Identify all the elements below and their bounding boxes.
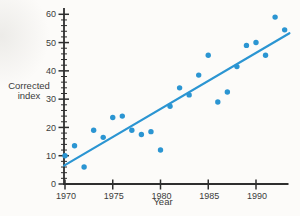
y-tick-label: 10 — [46, 151, 56, 161]
data-point — [91, 128, 96, 133]
trend-line — [64, 33, 289, 165]
data-point — [62, 153, 67, 158]
data-point — [215, 99, 220, 104]
data-point — [244, 43, 249, 48]
x-tick-label: 1990 — [247, 191, 267, 201]
data-point — [263, 53, 268, 58]
data-point — [225, 89, 230, 94]
y-axis-title-line2: index — [3, 91, 55, 101]
data-point — [167, 104, 172, 109]
data-point — [120, 113, 125, 118]
x-axis-title: Year — [133, 196, 193, 207]
data-point — [110, 115, 115, 120]
data-point — [272, 14, 277, 19]
data-point — [101, 135, 106, 140]
y-tick-label: 40 — [46, 66, 56, 76]
data-point — [196, 72, 201, 77]
y-axis-title: Corrected index — [3, 81, 55, 100]
data-point — [129, 128, 134, 133]
y-tick-label: 60 — [46, 9, 56, 19]
x-tick-label: 1975 — [104, 191, 124, 201]
y-tick-label: 20 — [46, 123, 56, 133]
y-tick-label: 0 — [51, 179, 56, 189]
x-tick-label: 1985 — [199, 191, 219, 201]
data-point — [177, 85, 182, 90]
x-tick-label: 1970 — [56, 191, 76, 201]
data-point — [282, 27, 287, 32]
data-point — [139, 132, 144, 137]
data-point — [186, 92, 191, 97]
y-tick-label: 50 — [46, 38, 56, 48]
data-point — [253, 40, 258, 45]
scatter-chart-figure: 010203040506019701975198019851990 Correc… — [0, 0, 300, 216]
plot-canvas: 010203040506019701975198019851990 — [0, 0, 300, 216]
data-point — [158, 147, 163, 152]
data-point — [206, 53, 211, 58]
data-point — [72, 143, 77, 148]
data-point — [81, 164, 86, 169]
data-point — [234, 64, 239, 69]
data-point — [148, 129, 153, 134]
